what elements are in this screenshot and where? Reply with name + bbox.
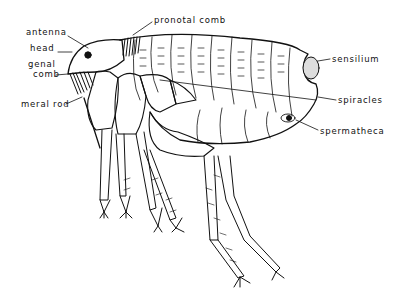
label-spiracles: spiracles	[338, 96, 383, 105]
label-head: head	[30, 44, 54, 53]
label-sensilium: sensilium	[332, 55, 379, 64]
flea-anatomy-diagram: antenna head genal comb meral rod pronot…	[0, 0, 399, 298]
label-genal-comb-line1: genal	[28, 60, 56, 69]
label-antenna: antenna	[26, 28, 67, 37]
label-genal-comb-line2: comb	[33, 70, 60, 79]
leader-lines	[56, 22, 336, 130]
label-meral-rod: meral rod	[21, 100, 69, 109]
label-spermatheca: spermatheca	[320, 127, 385, 136]
label-pronotal-comb: pronotal comb	[154, 16, 226, 25]
flea-drawing	[0, 0, 399, 298]
